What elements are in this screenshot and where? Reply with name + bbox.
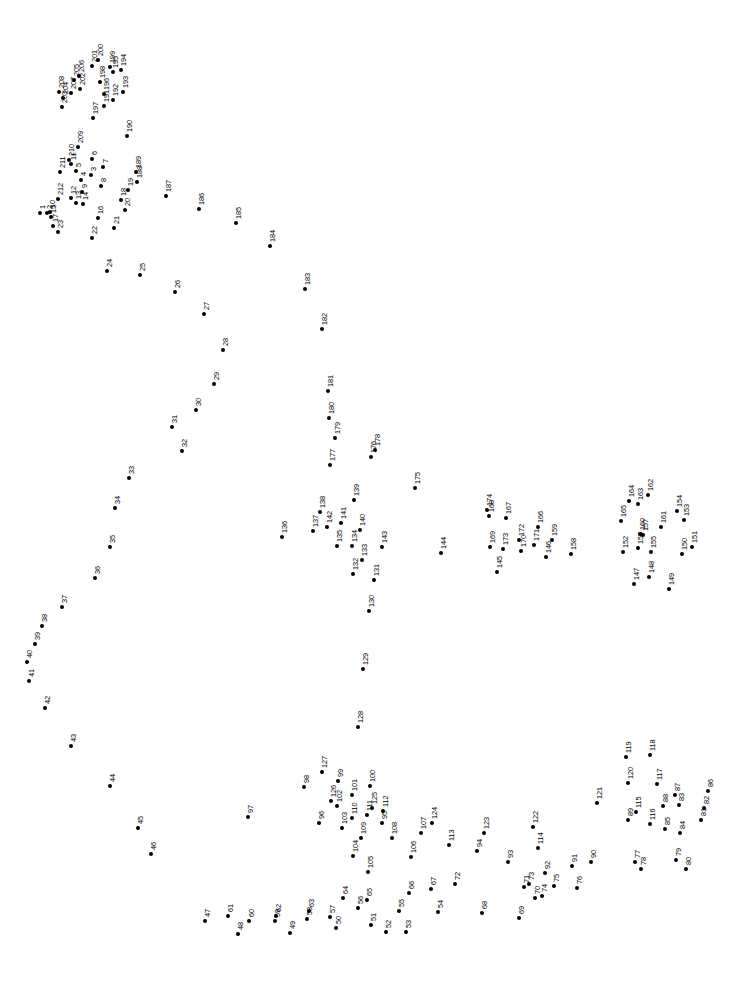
dot-marker <box>702 806 706 810</box>
dot-marker <box>149 852 153 856</box>
dot-marker <box>81 202 85 206</box>
dot-number-label: 105 <box>367 856 374 868</box>
dot-marker <box>320 770 324 774</box>
dot-number-label: 165 <box>620 505 627 517</box>
dot-marker <box>56 197 60 201</box>
dot-number-label: 122 <box>532 811 539 823</box>
dot-number-label: 162 <box>647 479 654 491</box>
dot-marker <box>335 544 339 548</box>
dot-marker <box>447 843 451 847</box>
dot-marker <box>194 408 198 412</box>
dot-number-label: 3 <box>90 167 97 171</box>
dot-marker <box>99 184 103 188</box>
dot-number-label: 151 <box>691 531 698 543</box>
dot-marker <box>663 827 667 831</box>
dot-number-label: 76 <box>576 876 583 884</box>
dot-number-label: 149 <box>668 573 675 585</box>
dot-marker <box>288 931 292 935</box>
dot-number-label: 169 <box>489 531 496 543</box>
dot-marker <box>60 605 64 609</box>
dot-number-label: 84 <box>679 821 686 829</box>
dot-marker <box>501 547 505 551</box>
dot-marker <box>69 162 73 166</box>
dot-marker <box>527 882 531 886</box>
dot-number-label: 90 <box>590 850 597 858</box>
dot-marker <box>519 549 523 553</box>
dot-number-label: 39 <box>34 632 41 640</box>
dot-marker <box>366 870 370 874</box>
dot-marker <box>38 211 42 215</box>
dot-number-label: 172 <box>518 524 525 536</box>
dot-marker <box>368 784 372 788</box>
dot-marker <box>134 170 138 174</box>
dot-marker <box>60 105 64 109</box>
dot-marker <box>648 753 652 757</box>
dot-marker <box>91 116 95 120</box>
dot-marker <box>517 538 521 542</box>
dot-number-label: 82 <box>703 796 710 804</box>
dot-marker <box>113 506 117 510</box>
dot-number-label: 187 <box>165 180 172 192</box>
dot-number-label: 135 <box>336 530 343 542</box>
dot-marker <box>329 799 333 803</box>
dot-number-label: 167 <box>505 502 512 514</box>
dot-marker <box>280 535 284 539</box>
dot-marker <box>138 273 142 277</box>
dot-marker <box>226 914 230 918</box>
dot-marker <box>360 558 364 562</box>
dot-number-label: 41 <box>28 669 35 677</box>
dot-number-label: 38 <box>41 614 48 622</box>
dot-marker <box>351 572 355 576</box>
dot-number-label: 161 <box>660 511 667 523</box>
dot-number-label: 4 <box>80 172 87 176</box>
dot-marker <box>661 804 665 808</box>
dot-number-label: 51 <box>370 913 377 921</box>
dot-number-label: 37 <box>61 595 68 603</box>
dot-number-label: 192 <box>112 84 119 96</box>
dot-marker <box>123 208 127 212</box>
dot-number-label: 33 <box>128 466 135 474</box>
dot-number-label: 124 <box>431 807 438 819</box>
dot-number-label: 99 <box>337 769 344 777</box>
dot-marker <box>536 846 540 850</box>
dot-number-label: 185 <box>235 207 242 219</box>
dot-number-label: 134 <box>351 530 358 542</box>
dot-number-label: 42 <box>44 696 51 704</box>
dot-marker <box>125 134 129 138</box>
dot-number-label: 72 <box>454 872 461 880</box>
dot-marker <box>550 538 554 542</box>
dot-number-label: 20 <box>124 198 131 206</box>
dot-marker <box>370 806 374 810</box>
dot-marker <box>624 755 628 759</box>
dot-marker <box>627 499 631 503</box>
dot-marker <box>381 809 385 813</box>
dot-marker <box>436 910 440 914</box>
dot-marker <box>506 860 510 864</box>
dot-marker <box>595 801 599 805</box>
dot-number-label: 152 <box>622 536 629 548</box>
dot-marker <box>102 92 106 96</box>
connect-the-dots-canvas: 1234567891011121314151617181920212223242… <box>0 0 732 988</box>
dot-number-label: 74 <box>541 884 548 892</box>
dot-number-label: 166 <box>537 511 544 523</box>
dot-marker <box>303 287 307 291</box>
dot-number-label: 160 <box>639 518 646 530</box>
dot-number-label: 34 <box>114 496 121 504</box>
dot-number-label: 110 <box>351 803 358 814</box>
dot-marker <box>180 449 184 453</box>
dot-marker <box>93 576 97 580</box>
dot-number-label: 104 <box>352 840 359 852</box>
dot-marker <box>336 779 340 783</box>
dot-marker <box>335 804 339 808</box>
dot-marker <box>318 510 322 514</box>
dot-marker <box>409 855 413 859</box>
dot-marker <box>89 173 93 177</box>
dot-marker <box>485 508 489 512</box>
dot-marker <box>684 867 688 871</box>
dot-marker <box>112 226 116 230</box>
dot-number-label: 92 <box>544 861 551 869</box>
dot-marker <box>532 543 536 547</box>
dot-marker <box>533 896 537 900</box>
dot-marker <box>69 196 73 200</box>
dot-marker <box>369 455 373 459</box>
